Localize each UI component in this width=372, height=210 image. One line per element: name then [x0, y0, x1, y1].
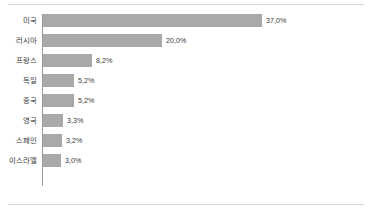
bar-track: [43, 154, 61, 167]
bar-rect[interactable]: [43, 34, 162, 47]
bar-row: 영국 3,3%: [0, 114, 372, 134]
bar-row: 프랑스 8,2%: [0, 54, 372, 74]
bar-rect[interactable]: [43, 134, 62, 147]
bar-value-label: 3,3%: [63, 114, 83, 127]
bar-category-label: 스페인: [0, 134, 37, 147]
bar-value-label: 3,2%: [62, 134, 82, 147]
top-divider: [8, 4, 364, 5]
bar-category-label: 러시아: [0, 34, 37, 47]
bar-track: [43, 74, 74, 87]
bar-rect[interactable]: [43, 114, 63, 127]
bar-category-label: 영국: [0, 114, 37, 127]
bar-value-label: 8,2%: [92, 54, 112, 67]
bar-track: [43, 134, 62, 147]
bar-track: [43, 94, 74, 107]
bar-row: 독일 5,2%: [0, 74, 372, 94]
plot-area: 미국 37,0% 러시아 20,0% 프랑스 8,2% 독일 5,: [0, 14, 372, 189]
bar-category-label: 이스라엘: [0, 154, 37, 167]
bar-track: [43, 14, 262, 27]
bar-category-label: 프랑스: [0, 54, 37, 67]
bar-value-label: 5,2%: [74, 74, 94, 87]
bar-rect[interactable]: [43, 14, 262, 27]
bar-row: 스페인 3,2%: [0, 134, 372, 154]
bar-value-label: 37,0%: [262, 14, 286, 27]
bar-value-label: 3,0%: [61, 154, 81, 167]
bar-rect[interactable]: [43, 74, 74, 87]
bar-row: 미국 37,0%: [0, 14, 372, 34]
bar-track: [43, 34, 162, 47]
bar-value-label: 5,2%: [74, 94, 94, 107]
bar-chart-card: 미국 37,0% 러시아 20,0% 프랑스 8,2% 독일 5,: [0, 0, 372, 210]
bar-track: [43, 114, 63, 127]
bar-rect[interactable]: [43, 154, 61, 167]
bar-rect[interactable]: [43, 54, 92, 67]
bar-category-label: 미국: [0, 14, 37, 27]
bar-row: 이스라엘 3,0%: [0, 154, 372, 174]
bar-category-label: 독일: [0, 74, 37, 87]
bar-category-label: 중국: [0, 94, 37, 107]
bar-row: 중국 5,2%: [0, 94, 372, 114]
bar-row: 러시아 20,0%: [0, 34, 372, 54]
bar-rect[interactable]: [43, 94, 74, 107]
bar-track: [43, 54, 92, 67]
bar-value-label: 20,0%: [162, 34, 186, 47]
bottom-divider: [8, 204, 364, 205]
